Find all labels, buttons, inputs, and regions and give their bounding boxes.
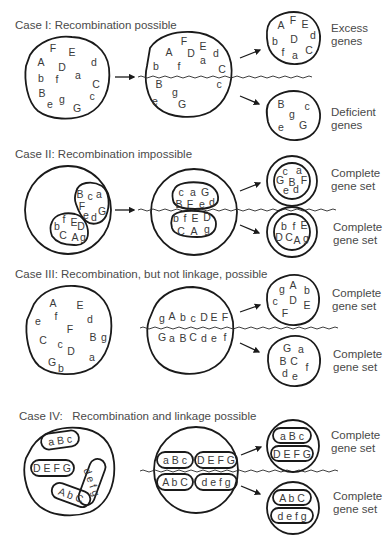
- gene-label: A: [71, 231, 78, 243]
- chromosome-label: A b C: [162, 476, 188, 488]
- gene-label: g: [279, 283, 285, 295]
- gene-label: d: [91, 211, 97, 223]
- gene-label: B: [277, 98, 284, 110]
- gene-label: b: [173, 212, 179, 224]
- gene-label: E: [199, 40, 206, 52]
- case-2-lower-label-line2: gene set: [333, 234, 378, 246]
- gene-label: a: [96, 188, 102, 200]
- case-1-title: Case I: Recombination possible: [15, 19, 177, 31]
- arrow-icon: [240, 343, 259, 352]
- case-3-panel: Case III: Recombination, but not linkage…: [15, 268, 382, 386]
- gene-label: C: [290, 355, 298, 367]
- gene-label: c: [178, 186, 183, 198]
- case-1-dividing-genes: FADEdabfCBcgeG: [152, 35, 226, 110]
- gene-label: A: [49, 297, 56, 309]
- gene-label: F: [282, 307, 288, 319]
- gene-label: G: [178, 98, 186, 110]
- gene-label: B: [89, 331, 96, 343]
- gene-label: A: [289, 279, 296, 291]
- case-4-lower-label-line2: gene set: [333, 503, 378, 515]
- gene-label: B: [179, 332, 186, 344]
- case-4-parent-chromosomes: a B c D E F G d e f g A b C: [31, 429, 108, 509]
- gene-label: G: [158, 331, 166, 343]
- gene-label: d: [91, 56, 97, 68]
- gene-label: D: [289, 294, 297, 306]
- gene-label: B: [175, 198, 182, 210]
- gene-label: G: [201, 186, 209, 198]
- gene-label: F: [301, 174, 307, 186]
- gene-label: G: [283, 342, 291, 354]
- gene-label: e: [35, 315, 41, 327]
- gene-label: a: [292, 49, 298, 61]
- case-1-panel: Case I: Recombination possible FEADdabfC…: [15, 12, 377, 140]
- gene-label: C: [285, 231, 293, 243]
- case-4-upper-label-line2: gene set: [331, 442, 376, 454]
- gene-label: c: [89, 90, 94, 102]
- gene-label: D: [200, 311, 208, 323]
- gene-label: A: [165, 46, 172, 58]
- gene-label: E: [301, 18, 308, 30]
- gene-label: C: [59, 229, 67, 241]
- case-2-upper-label-line1: Complete: [331, 167, 380, 179]
- gene-label: f: [56, 73, 59, 85]
- case-1-lower-label-line1: Deficient: [331, 106, 377, 118]
- gene-label: A: [190, 225, 197, 237]
- case-3-upper-gene-row: g A b c D E F: [159, 310, 228, 324]
- gene-label: F: [67, 323, 73, 335]
- gene-label: b: [180, 311, 186, 323]
- arrow-icon: [240, 96, 259, 104]
- case-3-parent-genes: AEefdFCcBgDaGb: [35, 297, 107, 374]
- case-1-upper-label-line2: genes: [331, 35, 363, 47]
- case-3-lower-label-line1: Complete: [333, 348, 382, 360]
- gene-label: C: [39, 334, 47, 346]
- gene-label: C: [305, 44, 313, 56]
- gene-label: f: [63, 213, 66, 225]
- gene-label: a: [298, 343, 304, 355]
- gene-label: c: [190, 312, 195, 324]
- gene-label: f: [224, 331, 227, 343]
- gene-label: E: [76, 299, 83, 311]
- gene-label: E: [303, 299, 310, 311]
- gene-label: d: [282, 367, 288, 379]
- case-4-dividing-chromosomes: a B c D E F G A b C d e f g: [157, 452, 237, 490]
- gene-label: d: [87, 313, 93, 325]
- gene-label: a: [75, 69, 81, 81]
- case-2-lower-label-line1: Complete: [333, 221, 382, 233]
- gene-label: d: [201, 332, 207, 344]
- gene-label: e: [278, 121, 284, 133]
- gene-label: F: [290, 14, 296, 26]
- case-3-upper-label-line1: Complete: [332, 287, 381, 299]
- chromosome-label: A b C: [279, 492, 305, 504]
- gene-label: c: [57, 338, 62, 350]
- arrow-icon: [240, 183, 260, 191]
- gene-label: c: [216, 78, 221, 90]
- arrow-icon: [241, 486, 260, 494]
- arrow-icon: [240, 225, 259, 233]
- gene-label: g: [172, 86, 178, 98]
- gene-label: F: [181, 35, 187, 47]
- gene-label: a: [200, 54, 206, 66]
- gene-label: F: [187, 198, 193, 210]
- gene-label: f: [184, 212, 187, 224]
- gene-label: D: [67, 345, 75, 357]
- case-1-division-line: [138, 76, 312, 78]
- genetic-recombination-figure: Case I: Recombination possible FEADdabfC…: [0, 0, 391, 542]
- gene-label: D: [187, 47, 195, 59]
- gene-label: d: [209, 196, 215, 208]
- case-3-upper-daughter-genes: gAbcDEF: [272, 279, 310, 319]
- gene-label: B: [38, 87, 45, 99]
- gene-label: g: [204, 223, 210, 235]
- case-3-division-line: [140, 327, 338, 329]
- gene-label: C: [218, 63, 226, 75]
- arrow-icon: [240, 305, 260, 312]
- gene-label: A: [168, 310, 175, 322]
- gene-label: b: [153, 60, 159, 72]
- gene-label: G: [48, 356, 56, 368]
- case-3-lower-gene-row: G a B C d e f: [158, 331, 227, 344]
- gene-label: f: [178, 60, 181, 72]
- gene-label: g: [101, 331, 107, 343]
- gene-label: a: [190, 186, 196, 198]
- gene-label: e: [211, 332, 217, 344]
- gene-label: F: [222, 311, 228, 323]
- case-4-division-line: [140, 470, 338, 472]
